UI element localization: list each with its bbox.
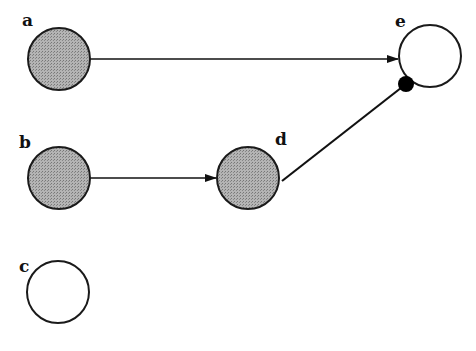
label-e: e [395, 11, 406, 31]
label-a: a [22, 10, 33, 30]
node-a [28, 28, 90, 90]
inhibitor-dot [398, 76, 414, 92]
edge-d-e [282, 84, 406, 181]
label-d: d [275, 129, 287, 149]
node-d [217, 147, 279, 209]
diagram-canvas: a b c d e [0, 0, 476, 351]
node-b [28, 147, 90, 209]
label-c: c [19, 256, 29, 276]
label-b: b [19, 132, 31, 152]
node-c [27, 261, 89, 323]
